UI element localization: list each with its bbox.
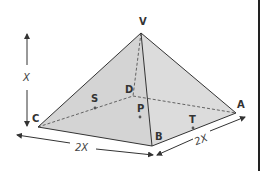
pyramid-diagram: V C B A D S P T X 2X 2X (0, 0, 261, 171)
vertex-v-label: V (139, 16, 147, 27)
base-right-label: 2X (193, 132, 210, 148)
vertex-d-label: D (125, 84, 133, 95)
point-t-label: T (189, 114, 196, 125)
point-t-dot (192, 127, 195, 130)
vertex-b-label: B (155, 131, 163, 142)
vertex-a-label: A (237, 99, 245, 110)
point-s-label: S (91, 93, 98, 104)
left-face (38, 33, 152, 146)
point-s-dot (94, 107, 97, 110)
point-p-label: P (137, 103, 144, 114)
vertex-c-label: C (32, 113, 39, 124)
base-front-arrow-left (17, 135, 70, 143)
right-face (141, 33, 236, 146)
height-label: X (22, 72, 31, 83)
right-border-bar (258, 0, 260, 171)
point-p-dot (139, 116, 142, 119)
base-front-label: 2X (75, 142, 89, 153)
base-front-arrow-right (96, 149, 153, 155)
